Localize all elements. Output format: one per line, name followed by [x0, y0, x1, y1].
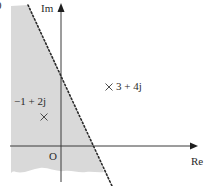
- point-label-3-plus4j: 3 + 4j: [116, 81, 142, 92]
- point-label-minus1-plus2j: −1 + 2j: [14, 96, 46, 107]
- diagram-canvas: [0, 0, 209, 186]
- argand-diagram: 0 Im −1 + 2j 3 + 4j O Re: [0, 0, 209, 186]
- cropped-fragment-label: 0: [0, 0, 2, 11]
- imaginary-axis-arrowhead-icon: [58, 3, 65, 12]
- imaginary-axis-label: Im: [41, 3, 53, 14]
- point-marker-3-plus4j-icon: [106, 84, 113, 91]
- origin-label: O: [49, 151, 57, 162]
- shaded-region: [11, 5, 104, 173]
- real-axis-arrowhead-icon: [190, 143, 198, 150]
- real-axis-label: Re: [191, 156, 203, 167]
